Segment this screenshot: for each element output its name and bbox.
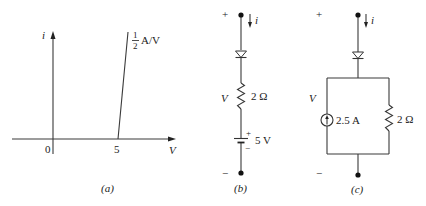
panel-b-circuit: i 2 Ω + − 5 V + − V (b) xyxy=(221,8,271,195)
minus-sign: − xyxy=(222,167,228,179)
bottom-terminal xyxy=(355,172,360,177)
current-arrow-icon xyxy=(248,22,252,28)
top-terminal xyxy=(238,12,243,17)
current-arrow-icon xyxy=(364,22,368,28)
top-terminal xyxy=(355,12,360,17)
knee-tick-label: 5 xyxy=(114,143,120,155)
current-source-icon xyxy=(321,114,333,126)
resistor-icon xyxy=(386,105,393,131)
y-axis-arrow-icon xyxy=(51,31,56,39)
resistor-label: 2 Ω xyxy=(251,90,267,102)
plus-sign: + xyxy=(222,8,228,20)
voltage-label: V xyxy=(221,92,229,104)
x-axis-arrow-icon xyxy=(168,137,176,142)
panel-c-circuit: i 2.5 A 2 Ω + − V (c) xyxy=(309,8,413,196)
voltage-label: V xyxy=(309,92,317,104)
resistor-icon xyxy=(238,83,245,109)
figure: i 0 5 V 1 2 A/V (a) i 2 Ω xyxy=(0,0,426,206)
slope-denominator: 2 xyxy=(133,41,138,51)
diode-icon xyxy=(236,51,247,58)
source-plus: + xyxy=(246,128,251,138)
current-label: i xyxy=(371,14,374,26)
slope-numerator: 1 xyxy=(133,30,138,40)
panel-a-plot: i 0 5 V 1 2 A/V (a) xyxy=(12,29,177,195)
y-axis-label: i xyxy=(42,29,45,41)
bottom-terminal xyxy=(238,170,243,175)
origin-tick-label: 0 xyxy=(45,143,51,155)
caption-c: (c) xyxy=(351,183,364,196)
minus-sign: − xyxy=(316,167,322,179)
battery-icon xyxy=(234,139,248,143)
plus-sign: + xyxy=(316,8,322,20)
current-label: i xyxy=(255,14,258,26)
resistor-label: 2 Ω xyxy=(397,113,413,125)
source-label: 5 V xyxy=(255,134,271,146)
slope-unit: A/V xyxy=(141,34,160,46)
current-source-label: 2.5 A xyxy=(336,114,360,126)
caption-a: (a) xyxy=(101,182,114,195)
diode-icon xyxy=(353,52,364,59)
x-axis-label: V xyxy=(169,144,177,156)
caption-b: (b) xyxy=(234,182,247,195)
characteristic-curve xyxy=(118,32,128,139)
source-minus: − xyxy=(245,143,250,153)
